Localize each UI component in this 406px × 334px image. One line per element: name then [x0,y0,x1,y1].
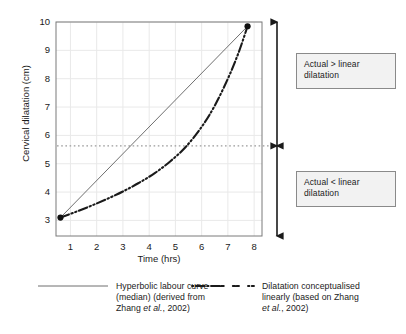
x-tick-label: 2 [90,241,104,252]
x-axis-title: Time (hrs) [104,253,214,264]
x-tick-label: 4 [142,241,156,252]
y-tick-label: 10 [34,16,50,27]
annotation-above-line2: dilatation [304,70,388,81]
y-axis-title: Cervical dilatation (cm) [20,49,31,179]
legend-item-hyperbolic: Hyperbolic labour curve (median) (derive… [116,281,212,315]
legend-item-1-line1: Dilatation conceptualised [262,281,406,292]
legend-item-1-line3: et al., 2002) [262,303,406,314]
annotation-above-line1: Actual > linear [304,59,388,70]
x-tick-label: 1 [63,241,77,252]
y-tick-label: 8 [34,73,50,84]
y-tick-label: 7 [34,101,50,112]
legend-item-0-line3-pre: Zhang [116,303,143,313]
y-tick-label: 4 [34,186,50,197]
annotation-below-line1: Actual < linear [304,177,388,188]
legend-item-conceptualised: Dilatation conceptualised linearly (base… [262,281,406,315]
legend-item-1-line3-post: , 2002) [281,303,308,313]
annotation-box-above: Actual > linear dilatation [296,53,396,89]
annotation-below-line2: dilatation [304,188,388,199]
y-tick-label: 9 [34,44,50,55]
annotation-box-below: Actual < linear dilatation [296,171,396,207]
x-tick-label: 3 [116,241,130,252]
start-point-marker [57,214,63,220]
x-tick-label: 6 [195,241,209,252]
legend-item-0-line3: Zhang et al., 2002) [116,303,212,314]
legend-item-1-line3-italic: et al. [262,303,281,313]
y-tick-label: 6 [34,129,50,140]
plot-area-background [56,22,262,236]
x-tick-label: 8 [247,241,261,252]
legend-item-1-line2: linearly (based on Zhang [262,292,406,303]
x-tick-label: 7 [221,241,235,252]
y-tick-label: 5 [34,158,50,169]
end-point-marker [244,23,250,29]
figure-root: 345678910 12345678 Cervical dilatation (… [0,0,406,334]
legend-item-0-line3-italic: et al. [143,303,162,313]
x-tick-label: 5 [168,241,182,252]
legend-item-0-line1: Hyperbolic labour curve [116,281,212,292]
legend-item-0-line3-post: , 2002) [163,303,190,313]
legend-item-0-line2: (median) (derived from [116,292,212,303]
y-tick-label: 3 [34,214,50,225]
